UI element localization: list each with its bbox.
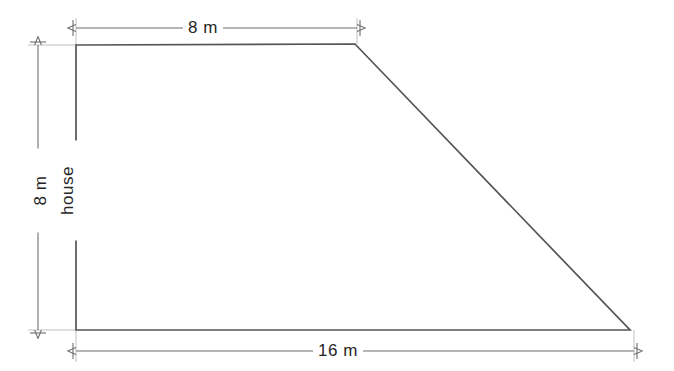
diagram-canvas: 8 m 16 m 8 m house	[0, 0, 674, 371]
geometry-diagram	[0, 0, 674, 371]
house-plot-outline	[76, 44, 630, 330]
bottom-width-label: 16 m	[313, 342, 363, 359]
top-width-label: 8 m	[183, 19, 223, 36]
left-height-label: 8 m	[29, 149, 52, 233]
house-interior-label: house	[56, 141, 79, 241]
